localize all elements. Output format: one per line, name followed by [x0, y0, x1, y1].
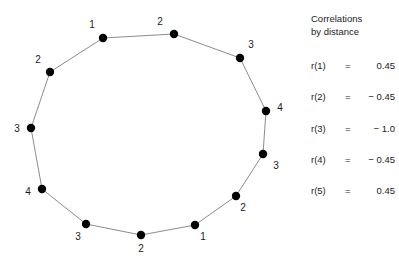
graph-node-label: 3 [75, 232, 81, 242]
graph-edge [42, 189, 86, 224]
graph-node-label: 4 [25, 187, 31, 197]
correlation-value: − 0.45 [355, 91, 395, 102]
graph-edge [141, 225, 195, 235]
graph-node-label: 4 [277, 103, 283, 113]
correlation-row: r(2)=− 0.45 [311, 91, 399, 102]
graph-edge [240, 58, 266, 111]
correlation-key: r(3) [311, 123, 345, 134]
correlation-equals-sign: = [345, 91, 355, 102]
graph-edge [31, 72, 50, 128]
correlation-equals-sign: = [345, 60, 355, 71]
graph-edge [174, 34, 240, 58]
graph-node [38, 185, 46, 193]
correlation-row: r(5)=0.45 [311, 185, 399, 196]
graph-node-label: 2 [35, 55, 41, 65]
graph-node [46, 68, 54, 76]
graph-node [170, 30, 178, 38]
graph-edge [263, 111, 266, 154]
graph-node [99, 34, 107, 42]
graph-node [191, 221, 199, 229]
graph-edges [31, 34, 266, 235]
graph-node-label: 1 [200, 232, 206, 242]
ring-graph-svg [0, 0, 300, 263]
correlation-equals-sign: = [345, 185, 355, 196]
correlation-equals-sign: = [345, 123, 355, 134]
correlation-value: − 0.45 [355, 154, 395, 165]
graph-nodes [27, 30, 270, 239]
correlation-equals-sign: = [345, 154, 355, 165]
correlation-value: 0.45 [355, 60, 395, 71]
correlation-row: r(3)=− 1.0 [311, 123, 399, 134]
graph-node-label: 2 [157, 17, 163, 27]
graph-node-label: 3 [14, 124, 20, 134]
graph-node [259, 150, 267, 158]
graph-node [236, 54, 244, 62]
graph-node-label: 3 [273, 161, 279, 171]
graph-node [82, 220, 90, 228]
graph-edge [103, 34, 174, 38]
correlation-value: − 1.0 [355, 123, 395, 134]
graph-edge [31, 128, 42, 189]
correlation-key: r(5) [311, 185, 345, 196]
graph-edge [236, 154, 263, 196]
correlation-key: r(4) [311, 154, 345, 165]
figure-canvas: 234321234321 Correlations by distance r(… [0, 0, 399, 263]
graph-node [27, 124, 35, 132]
ring-graph: 234321234321 [0, 0, 300, 263]
correlation-row: r(4)=− 0.45 [311, 154, 399, 165]
correlation-row: r(1)=0.45 [311, 60, 399, 71]
graph-node [232, 192, 240, 200]
graph-edge [195, 196, 236, 225]
graph-node [137, 231, 145, 239]
graph-node-label: 2 [240, 203, 246, 213]
graph-node-label: 1 [89, 20, 95, 30]
correlation-key: r(2) [311, 91, 345, 102]
graph-node-label: 2 [138, 244, 144, 254]
correlation-key: r(1) [311, 60, 345, 71]
legend-title: Correlations by distance [311, 13, 399, 38]
graph-node-label: 3 [248, 40, 254, 50]
graph-node [262, 107, 270, 115]
correlation-value: 0.45 [355, 185, 395, 196]
graph-edge [50, 38, 103, 72]
graph-edge [86, 224, 141, 235]
correlations-legend-panel: Correlations by distance r(1)=0.45r(2)=−… [311, 13, 399, 38]
